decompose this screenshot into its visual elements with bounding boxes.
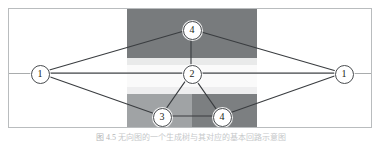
- graph-node-top-label: 4: [190, 25, 195, 35]
- graph-node-left[interactable]: 1: [31, 65, 50, 84]
- diagram-frame: 1 1 4 2 3 4: [8, 8, 372, 128]
- graph-node-br-label: 4: [220, 112, 225, 122]
- graph-edge: [229, 76, 334, 113]
- graph-node-bottom-right[interactable]: 4: [213, 108, 232, 127]
- graph-node-left-label: 1: [38, 69, 43, 79]
- graph-node-bottom-left[interactable]: 3: [153, 108, 172, 127]
- graph-node-bl-label: 3: [160, 112, 165, 122]
- graph-edge: [166, 80, 186, 108]
- figure-caption-text: 无向图的一个生成树与其对应的基本回路示意图: [118, 133, 286, 142]
- graph-node-top[interactable]: 4: [183, 21, 202, 40]
- figure-caption-label: 图 4.5: [96, 133, 116, 142]
- graph-node-center-label: 2: [190, 69, 195, 79]
- figure-root: 1 1 4 2 3 4 图 4.5 无向图的一个生成树与其对应的基本回路示意图: [0, 0, 382, 146]
- graph-edge: [200, 32, 335, 71]
- graph-edge: [196, 80, 216, 108]
- graph-node-right-label: 1: [342, 69, 347, 79]
- figure-caption: 图 4.5 无向图的一个生成树与其对应的基本回路示意图: [0, 132, 382, 143]
- graph-edge: [47, 76, 152, 113]
- graph-node-right[interactable]: 1: [335, 65, 354, 84]
- graph-node-center[interactable]: 2: [183, 65, 202, 84]
- graph-edge: [48, 32, 183, 71]
